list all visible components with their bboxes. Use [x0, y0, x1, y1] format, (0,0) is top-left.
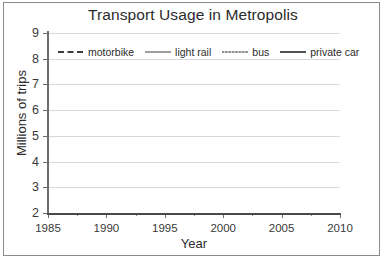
legend-label: private car — [310, 47, 359, 58]
chart-title: Transport Usage in Metropolis — [0, 6, 386, 24]
gridline — [48, 33, 340, 34]
plot-area: 23456789 198519901995200020052010 — [48, 33, 340, 213]
legend-label: bus — [252, 47, 269, 58]
y-tick-label: 3 — [32, 180, 39, 194]
y-axis-label-text: Millions of trips — [14, 70, 29, 156]
legend-item-light-rail[interactable]: light rail — [145, 47, 211, 58]
y-tick-label: 4 — [32, 155, 39, 169]
x-tick-label: 1985 — [35, 222, 61, 234]
x-axis-line — [47, 213, 341, 215]
chart-legend: motorbikelight railbusprivate car — [58, 47, 359, 58]
gridline — [48, 84, 340, 85]
x-tick-label: 2000 — [210, 222, 236, 234]
x-axis-label: Year — [48, 236, 340, 251]
y-tick-label: 9 — [32, 26, 39, 40]
gridline — [48, 110, 340, 111]
x-tick-label: 1995 — [152, 222, 178, 234]
dashed-line-swatch — [58, 48, 84, 56]
x-tick-label: 2010 — [327, 222, 353, 234]
gridline — [48, 136, 340, 137]
y-tick-label: 8 — [32, 52, 39, 66]
x-tick-label: 1990 — [94, 222, 120, 234]
legend-label: motorbike — [88, 47, 134, 58]
legend-item-motorbike[interactable]: motorbike — [58, 47, 134, 58]
x-tick-label: 2005 — [269, 222, 295, 234]
legend-item-private-car[interactable]: private car — [280, 47, 359, 58]
y-tick-label: 2 — [32, 206, 39, 220]
gridline — [48, 187, 340, 188]
y-tick-label: 6 — [32, 103, 39, 117]
y-tick-label: 5 — [32, 129, 39, 143]
y-axis-label: Millions of trips — [12, 38, 30, 188]
y-tick-label: 7 — [32, 77, 39, 91]
dotted-line-swatch — [222, 48, 248, 56]
legend-label: light rail — [175, 47, 211, 58]
gridline — [48, 162, 340, 163]
solid-line-swatch — [280, 48, 306, 56]
y-axis-line — [47, 31, 49, 215]
solid-line-swatch — [145, 48, 171, 56]
chart-figure: Transport Usage in Metropolis Millions o… — [0, 0, 386, 262]
legend-item-bus[interactable]: bus — [222, 47, 269, 58]
gridline — [48, 59, 340, 60]
plot-background — [48, 33, 340, 213]
